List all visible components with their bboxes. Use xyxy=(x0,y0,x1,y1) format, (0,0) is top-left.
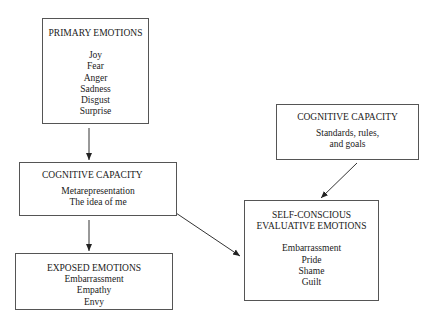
list-item: Embarrassment xyxy=(245,243,378,254)
list-item: Fear xyxy=(43,61,148,72)
list-item: Joy xyxy=(43,50,148,61)
self-conscious-title-line1: SELF-CONSCIOUS xyxy=(245,210,378,221)
self-conscious-list: Embarrassment Pride Shame Guilt xyxy=(245,243,378,288)
cognitive-capacity-metarepresentation-box: COGNITIVE CAPACITY Metarepresentation Th… xyxy=(19,162,177,216)
exposed-emotions-title: EXPOSED EMOTIONS xyxy=(16,263,172,274)
primary-emotions-list: Joy Fear Anger Sadness Disgust Surprise xyxy=(43,50,148,117)
list-item: Embarrassment xyxy=(16,274,172,285)
primary-emotions-box: PRIMARY EMOTIONS Joy Fear Anger Sadness … xyxy=(42,18,149,124)
list-item: Pride xyxy=(245,255,378,266)
list-item: Metarepresentation xyxy=(20,186,176,197)
exposed-emotions-list: Embarrassment Empathy Envy xyxy=(16,274,172,308)
list-item: Envy xyxy=(16,297,172,308)
cognitive-capacity-title: COGNITIVE CAPACITY xyxy=(277,112,418,123)
list-item: Surprise xyxy=(43,106,148,117)
arrow-standards-to-self-conscious xyxy=(321,163,357,198)
self-conscious-title-line2: EVALUATIVE EMOTIONS xyxy=(245,221,378,232)
cognitive-capacity-standards-box: COGNITIVE CAPACITY Standards, rules, and… xyxy=(276,104,419,160)
cognitive-capacity-list: Standards, rules, and goals xyxy=(277,128,418,150)
list-item: Sadness xyxy=(43,84,148,95)
list-item: Anger xyxy=(43,73,148,84)
list-item: and goals xyxy=(277,139,418,150)
primary-emotions-title: PRIMARY EMOTIONS xyxy=(43,28,148,39)
list-item: The idea of me xyxy=(20,197,176,208)
exposed-emotions-box: EXPOSED EMOTIONS Embarrassment Empathy E… xyxy=(15,253,173,310)
arrow-cognitive-to-self-conscious xyxy=(176,213,240,256)
cognitive-capacity-list: Metarepresentation The idea of me xyxy=(20,186,176,208)
list-item: Standards, rules, xyxy=(277,128,418,139)
self-conscious-evaluative-emotions-box: SELF-CONSCIOUS EVALUATIVE EMOTIONS Embar… xyxy=(244,200,379,301)
list-item: Guilt xyxy=(245,277,378,288)
list-item: Disgust xyxy=(43,95,148,106)
list-item: Shame xyxy=(245,266,378,277)
cognitive-capacity-title: COGNITIVE CAPACITY xyxy=(20,170,176,181)
list-item: Empathy xyxy=(16,285,172,296)
